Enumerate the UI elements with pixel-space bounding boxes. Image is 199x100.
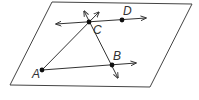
- point-a: [40, 68, 45, 73]
- point-b: [110, 63, 115, 68]
- line-ab: [42, 63, 136, 70]
- point-d: [120, 18, 125, 23]
- geometry-diagram: A B C D: [0, 0, 199, 100]
- label-d: D: [123, 4, 132, 18]
- label-c: C: [93, 23, 102, 37]
- label-b: B: [113, 49, 121, 63]
- point-c: [87, 20, 92, 25]
- label-a: A: [31, 67, 40, 81]
